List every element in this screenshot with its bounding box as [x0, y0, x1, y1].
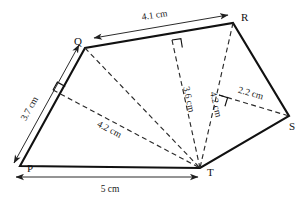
- vertex-label-q: Q: [74, 35, 82, 47]
- dimension-label-pt: 5 cm: [101, 184, 120, 194]
- vertex-label-s: S: [289, 120, 295, 132]
- geometry-diagram: P Q R S T 4.1 cm 3.7 cm 5 cm 3.6 cm 4.2 …: [0, 0, 306, 199]
- dimension-label-height-s: 2.2 cm: [237, 85, 265, 102]
- altitude-pq-to-t: [53, 90, 200, 168]
- vertex-label-r: R: [241, 11, 249, 23]
- dimension-label-diagonal-rt: 4.2 cm: [208, 91, 224, 119]
- dimension-label-height-pq: 4.2 cm: [96, 119, 124, 140]
- vertex-label-t: T: [207, 166, 214, 178]
- dimension-label-pq: 3.7 cm: [19, 94, 41, 122]
- diagonal-q-t: [85, 48, 200, 168]
- dimension-line-pq: [14, 45, 79, 163]
- vertex-label-p: P: [27, 162, 33, 174]
- right-angle-on-qr: [172, 39, 182, 49]
- dimension-label-height-qr: 3.6 cm: [181, 86, 196, 114]
- dimension-label-qr: 4.1 cm: [141, 8, 169, 22]
